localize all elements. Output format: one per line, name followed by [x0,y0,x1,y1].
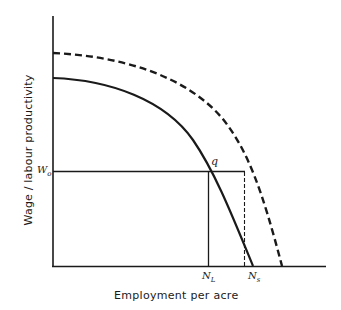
upper-dashed-curve [53,53,282,266]
x-axis-label: Employment per acre [114,289,239,302]
wage-symbol: W [37,164,47,175]
ns-label: Ns [248,270,260,284]
nl-symbol: N [202,270,211,281]
ns-symbol: N [248,270,257,281]
intersection-label: q [211,155,218,168]
y-axis-label: Wage / labour productivity [22,75,35,226]
diagram-canvas [0,0,341,310]
nl-subscript: L [211,276,216,284]
nl-label: NL [202,270,215,284]
ns-subscript: s [257,276,261,284]
wage-level-label: Wo [37,164,52,178]
wage-subscript: o [47,170,51,178]
